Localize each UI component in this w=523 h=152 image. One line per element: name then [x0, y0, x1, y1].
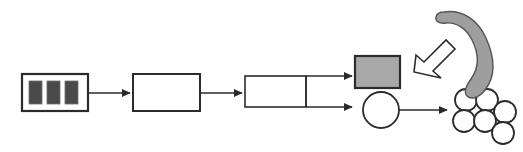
- cluster-circle-6: [492, 122, 514, 144]
- empty-process-block[interactable]: [133, 74, 200, 111]
- empty-block-outline: [133, 74, 200, 111]
- split-stage-block[interactable]: [245, 76, 306, 107]
- striped-block-bar-3: [65, 81, 78, 104]
- circle-output-node[interactable]: [363, 92, 399, 128]
- hollow-pointer-arrow[interactable]: [414, 40, 455, 78]
- striped-block-bar-2: [47, 81, 60, 104]
- diagram-svg: [0, 0, 523, 152]
- diagram-canvas: [0, 0, 523, 152]
- circle-node-outline: [363, 92, 399, 128]
- cluster-circle-4: [453, 110, 475, 132]
- gray-block-outline: [355, 56, 400, 88]
- cluster-circle-3: [494, 101, 516, 123]
- striped-block-bar-1: [29, 81, 42, 104]
- striped-source-block[interactable]: [22, 74, 88, 111]
- gray-output-block[interactable]: [355, 56, 400, 88]
- circle-cluster-output[interactable]: [453, 89, 516, 144]
- hollow-arrow-body: [414, 40, 455, 78]
- split-block-outline: [245, 76, 306, 107]
